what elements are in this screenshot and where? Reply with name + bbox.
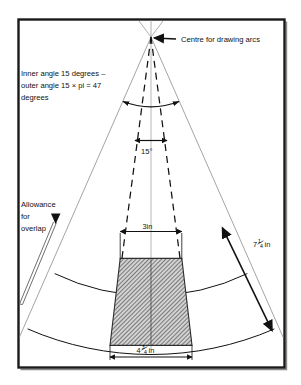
slant-height-denominator: 4: [260, 243, 263, 249]
figure-root: Centre for drawing arcs Inner angle 15 d…: [0, 0, 301, 385]
label-inner-angle: 15°: [141, 147, 152, 156]
slant-height-whole: 7: [253, 240, 257, 249]
label-angle-note-line2: outer angle 15 × pi = 47: [21, 81, 101, 90]
cone-layout-diagram: Centre for drawing arcs Inner angle 15 d…: [0, 0, 301, 385]
bottom-width-unit: in: [149, 346, 155, 355]
label-angle-note-line3: degrees: [21, 93, 49, 102]
label-angle-note-line1: Inner angle 15 degrees –: [21, 69, 106, 78]
slant-height-unit: in: [265, 240, 271, 249]
label-allowance-line1: Allowance: [21, 200, 56, 209]
label-centre-for-drawing-arcs: Centre for drawing arcs: [181, 35, 260, 44]
bottom-width-whole: 4: [137, 346, 141, 355]
centre-leader-arrow: [155, 38, 177, 39]
label-allowance-line3: overlap: [21, 224, 46, 233]
label-dimension-top-width: 3in: [143, 222, 153, 231]
label-allowance-line2: for: [21, 212, 30, 221]
bottom-width-denominator: 4: [144, 349, 147, 355]
